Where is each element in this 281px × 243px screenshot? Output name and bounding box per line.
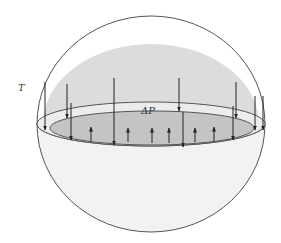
tension-label: T bbox=[18, 82, 26, 93]
pressure-difference-label: ΔP bbox=[140, 105, 155, 116]
hemisphere-pressure-diagram: T ΔP bbox=[0, 0, 281, 243]
